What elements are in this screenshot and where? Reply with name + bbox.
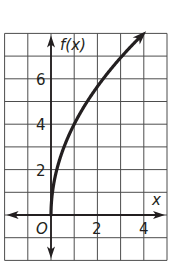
x-tick-label-4: 4 [139, 220, 149, 238]
curve-f-of-x [51, 38, 140, 215]
y-tick-label-4: 4 [36, 116, 46, 134]
y-tick-label-6: 6 [36, 71, 46, 89]
x-tick-label-2: 2 [92, 220, 102, 238]
origin-label: O [36, 220, 48, 238]
y-axis-label: f(x) [60, 36, 86, 54]
function-graph: f(x) x O 2 4 2 4 6 [0, 0, 174, 262]
x-axis-label: x [151, 191, 161, 209]
y-tick-label-2: 2 [36, 162, 46, 180]
